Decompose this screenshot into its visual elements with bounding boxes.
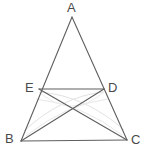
side-AB (21, 17, 72, 141)
triangle-outline-group (21, 17, 127, 141)
side-BC (21, 140, 127, 141)
geometry-canvas (0, 0, 150, 161)
geometry-figure: A B C D E (0, 0, 150, 161)
vertex-label-D: D (108, 81, 117, 94)
cevian-BD (21, 89, 104, 141)
vertex-label-B: B (5, 132, 14, 145)
vertex-label-E: E (25, 81, 34, 94)
cevians-group (21, 89, 127, 141)
cevian-CE (39, 89, 127, 140)
side-AC (72, 17, 127, 140)
vertex-label-C: C (131, 133, 140, 146)
vertex-label-A: A (67, 1, 76, 14)
